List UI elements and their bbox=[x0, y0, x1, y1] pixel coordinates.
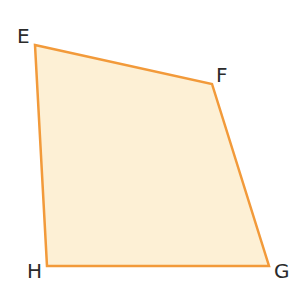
diagram-canvas: E F G H bbox=[0, 0, 299, 296]
vertex-label-e: E bbox=[17, 24, 30, 48]
vertex-label-h: H bbox=[27, 259, 42, 283]
vertex-label-f: F bbox=[216, 63, 228, 87]
vertex-label-g: G bbox=[274, 259, 290, 283]
quadrilateral-efgh bbox=[35, 45, 269, 266]
quadrilateral-figure: E F G H bbox=[0, 0, 299, 296]
